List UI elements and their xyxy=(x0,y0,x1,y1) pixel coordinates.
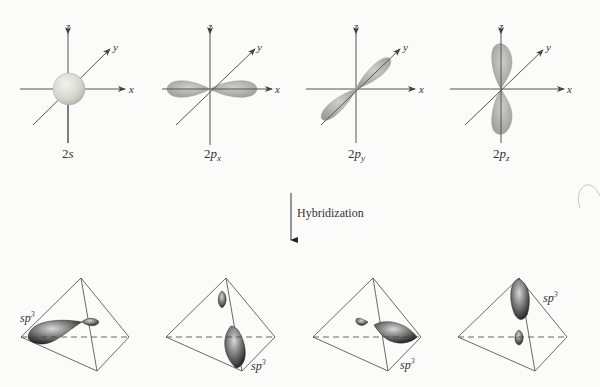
x-axis-label: x xyxy=(274,83,280,95)
z-axis-label: z xyxy=(498,20,504,32)
orbital-2px: z y x 2px xyxy=(162,20,280,163)
z-axis-label: z xyxy=(353,20,359,32)
sp3-orbital-2: sp3 xyxy=(166,278,275,373)
hybridization-diagram: z y x 2s z y x 2px z y x 2py z y x xyxy=(0,0,600,387)
z-axis-label: z xyxy=(65,20,71,32)
z-axis-label: z xyxy=(207,20,213,32)
sp3-label: sp3 xyxy=(543,290,558,305)
sp3-label: sp3 xyxy=(251,358,266,373)
label-2px: 2px xyxy=(204,146,221,163)
sp3-orbital-1: sp3 xyxy=(20,278,129,371)
label-2py: 2py xyxy=(348,146,365,163)
sp3-label: sp3 xyxy=(400,357,415,372)
x-axis-label: x xyxy=(418,83,424,95)
sp3-orbital-4: sp3 xyxy=(458,278,567,371)
x-axis-label: x xyxy=(566,83,572,95)
label-2s: 2s xyxy=(62,146,74,161)
orbital-2py: z y x 2py xyxy=(306,20,424,163)
pencil-mark xyxy=(578,185,600,208)
sp3-orbital-3: sp3 xyxy=(313,278,421,372)
y-axis-label: y xyxy=(545,41,551,53)
orbital-2pz: z y x 2pz xyxy=(450,20,572,163)
hybridization-label: Hybridization xyxy=(297,206,364,221)
orbital-2s: z y x 2s xyxy=(20,20,134,161)
y-axis-label: y xyxy=(256,41,262,53)
x-axis-label: x xyxy=(128,83,134,95)
y-axis-label: y xyxy=(402,41,408,53)
label-2pz: 2pz xyxy=(493,146,510,163)
sp3-label: sp3 xyxy=(20,310,35,325)
y-axis-label: y xyxy=(112,41,118,53)
